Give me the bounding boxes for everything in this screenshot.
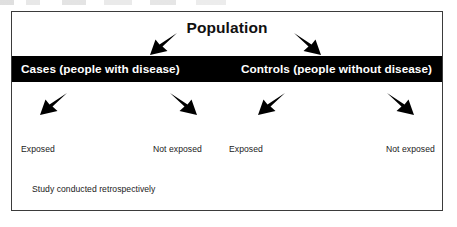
arrow-population-to-controls-icon	[293, 32, 323, 56]
group-label-controls: Controls (people without disease)	[241, 62, 432, 76]
arrow-controls-to-not-exposed-icon	[386, 92, 416, 116]
title-population: Population	[186, 19, 267, 36]
exposure-label-controls-not-exposed: Not exposed	[386, 144, 435, 154]
group-band: Cases (people with disease) Controls (pe…	[12, 56, 442, 82]
footnote-study-design: Study conducted retrospectively	[32, 184, 155, 194]
page-title: Population	[12, 19, 442, 37]
exposure-label-controls-exposed: Exposed	[229, 144, 263, 154]
arrow-population-to-cases-icon	[148, 32, 178, 56]
exposure-label-cases-not-exposed: Not exposed	[153, 144, 202, 154]
scan-artifact-smudge	[0, 0, 250, 5]
exposure-label-cases-exposed: Exposed	[21, 144, 55, 154]
arrow-cases-to-not-exposed-icon	[169, 92, 199, 116]
arrow-cases-to-exposed-icon	[38, 92, 68, 116]
diagram-canvas: Population Cases (people with disease) C…	[0, 0, 457, 227]
group-label-cases: Cases (people with disease)	[21, 62, 180, 76]
arrow-controls-to-exposed-icon	[256, 92, 286, 116]
diagram-frame: Population Cases (people with disease) C…	[11, 11, 443, 211]
